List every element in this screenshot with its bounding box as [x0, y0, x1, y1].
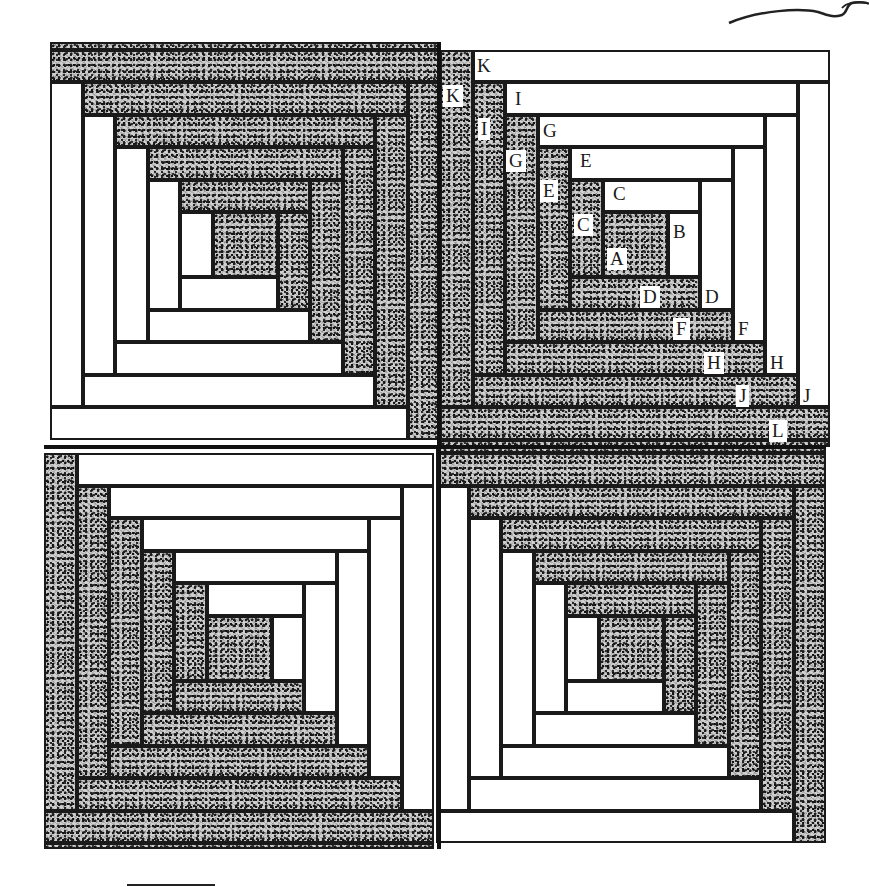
bottom-left-block-center-square: [207, 616, 272, 681]
bottom-right-block-dark-strip: [729, 551, 762, 779]
bottom-left-block-dark-strip: [109, 746, 369, 779]
bottom-right-block-dark-strip: [794, 486, 827, 844]
strip-label-f: F: [673, 318, 690, 340]
top-left-block-light-strip: [148, 180, 181, 310]
top-left-block-light-strip: [115, 147, 148, 342]
top-left-block-light-strip: [115, 342, 343, 375]
bottom-left-block-light-strip: [174, 551, 337, 584]
bottom-left-block-light-strip: [272, 616, 305, 681]
strip-label-i: I: [512, 88, 524, 110]
top-left-block-dark-strip: [310, 180, 343, 343]
top-right-block-light-strip: [765, 115, 798, 375]
top-left-block-dark-strip: [180, 180, 310, 213]
top-right-block-light-strip: [505, 82, 798, 115]
strip-label-k: K: [474, 55, 494, 77]
top-left-block-light-strip: [50, 82, 83, 407]
strip-label-e: E: [577, 150, 595, 172]
bottom-right-block-dark-strip: [664, 616, 697, 714]
bottom-left-block-dark-strip: [77, 778, 402, 811]
bottom-right-block-light-strip: [469, 518, 502, 778]
strip-label-j: J: [800, 385, 813, 407]
top-left-block-dark-strip: [50, 42, 440, 50]
top-right-block-light-strip: [733, 147, 766, 342]
top-right-block-dark-strip: [505, 342, 765, 375]
bottom-left-block-light-strip: [337, 551, 370, 746]
top-right-block-dark-strip: [538, 310, 733, 343]
log-cabin-quilt-diagram: ABCCDDEEFFGGHHIIJJKKL: [0, 0, 869, 887]
bottom-right-block-light-strip: [566, 616, 599, 681]
bottom-left-block-dark-strip: [109, 518, 142, 746]
bottom-left-block-light-strip: [402, 486, 435, 811]
bottom-left-block-dark-strip: [44, 843, 434, 849]
strip-label-h: H: [704, 352, 724, 374]
strip-label-i: I: [478, 118, 490, 140]
strip-label-g: G: [540, 120, 560, 142]
bottom-left-block-dark-strip: [142, 713, 337, 746]
bottom-right-block-dark-strip: [761, 518, 794, 811]
bottom-right-block-center-square: [599, 616, 664, 681]
thread-curl-icon: [0, 0, 869, 40]
top-left-block-dark-strip: [50, 50, 440, 83]
top-left-block-light-strip: [83, 375, 376, 408]
top-left-block-dark-strip: [343, 147, 376, 375]
bottom-right-block-light-strip: [534, 713, 697, 746]
top-left-block-dark-strip: [408, 82, 441, 440]
bottom-left-block-dark-strip: [44, 453, 77, 811]
top-left-block-center-square: [213, 212, 278, 277]
strip-label-a: A: [607, 248, 627, 270]
top-left-block-dark-strip: [278, 212, 311, 310]
strip-label-h: H: [767, 352, 787, 374]
bottom-right-block-light-strip: [469, 778, 762, 811]
strip-label-b: B: [670, 221, 689, 243]
bottom-left-block-light-strip: [304, 583, 337, 713]
top-right-block-light-strip: [538, 115, 766, 148]
strip-label-l: L: [769, 420, 787, 442]
scale-rule: [127, 884, 215, 886]
bottom-right-block-light-strip: [566, 681, 664, 714]
bottom-right-block-dark-strip: [501, 518, 761, 551]
bottom-right-block-light-strip: [436, 811, 794, 844]
top-right-block-light-strip: [798, 82, 831, 407]
strip-label-e: E: [540, 180, 558, 202]
bottom-right-block-light-strip: [501, 746, 729, 779]
bottom-right-block-dark-strip: [566, 583, 696, 616]
strip-label-c: C: [574, 214, 593, 236]
strip-label-k: K: [443, 85, 463, 107]
top-right-block-light-strip: [473, 50, 831, 83]
bottom-left-block-light-strip: [77, 453, 435, 486]
top-left-block-light-strip: [50, 407, 408, 440]
bottom-left-block-dark-strip: [174, 681, 304, 714]
strip-label-d: D: [702, 286, 722, 308]
bottom-left-block-light-strip: [142, 518, 370, 551]
bottom-left-block-dark-strip: [77, 486, 110, 779]
bottom-right-block-light-strip: [501, 551, 534, 746]
strip-label-g: G: [506, 150, 526, 172]
top-left-block-dark-strip: [83, 82, 408, 115]
bottom-right-block-dark-strip: [469, 486, 794, 519]
top-right-block-dark-strip: [570, 277, 700, 310]
top-left-block-light-strip: [180, 212, 213, 277]
bottom-left-block-light-strip: [109, 486, 402, 519]
top-left-block-light-strip: [180, 277, 278, 310]
top-left-block-dark-strip: [148, 147, 343, 180]
top-right-block-dark-strip: [505, 115, 538, 343]
bottom-left-block-light-strip: [207, 583, 305, 616]
strip-label-c: C: [610, 183, 629, 205]
bottom-left-block-light-strip: [369, 518, 402, 778]
bottom-right-block-dark-strip: [696, 583, 729, 746]
top-left-block-light-strip: [83, 115, 116, 375]
bottom-left-block-dark-strip: [44, 811, 434, 844]
top-right-block-dark-strip: [538, 147, 571, 310]
horizontal-center-seam: [44, 445, 826, 449]
strip-label-d: D: [640, 286, 660, 308]
strip-label-f: F: [735, 318, 752, 340]
bottom-right-block-dark-strip: [436, 453, 826, 486]
top-left-block-dark-strip: [115, 115, 375, 148]
bottom-right-block-dark-strip: [534, 551, 729, 584]
top-left-block-dark-strip: [375, 115, 408, 408]
bottom-left-block-dark-strip: [142, 551, 175, 714]
strip-label-j: J: [736, 385, 749, 407]
top-left-block-light-strip: [148, 310, 311, 343]
bottom-right-block-light-strip: [534, 583, 567, 713]
bottom-left-block-dark-strip: [174, 583, 207, 681]
